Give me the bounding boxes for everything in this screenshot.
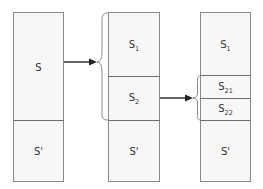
arrow-head-icon: [89, 59, 97, 66]
arrow-head-icon: [185, 95, 193, 102]
partition-diagram: S S' S1 S2 S' S1 S21 S22 S': [0, 0, 263, 189]
curly-brace-2: [193, 76, 201, 120]
segment-label-S-prime: S': [221, 146, 230, 157]
curly-brace-1: [97, 13, 108, 120]
column-stage-1: S S': [14, 13, 64, 182]
column-stage-2: S1 S2 S': [109, 13, 160, 182]
segment-label-S-prime: S': [129, 146, 138, 157]
column-stage-3: S1 S21 S22 S': [201, 13, 251, 182]
arrow-1: [64, 59, 97, 66]
arrow-2: [160, 95, 193, 102]
segment-label-S: S: [35, 62, 41, 73]
segment-label-S-prime: S': [34, 146, 43, 157]
